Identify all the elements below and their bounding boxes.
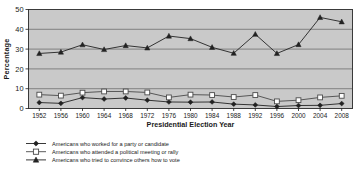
data-point-marker (210, 93, 215, 98)
chart-container: 01020304050 1952195619601964196819721976… (0, 0, 359, 173)
data-point-marker (188, 92, 193, 97)
x-axis-tick-label: 2004 (313, 112, 328, 119)
legend-item[interactable]: Americans who worked for a party or cand… (26, 141, 169, 147)
x-axis-tick-label: 1956 (54, 112, 69, 119)
x-axis-tick-label: 2008 (335, 112, 350, 119)
y-axis-tick-label: 40 (15, 25, 23, 34)
x-axis-title: Presidential Election Year (147, 120, 235, 129)
x-axis-tick-label: 1952 (32, 112, 47, 119)
data-point-marker (102, 89, 107, 94)
x-axis-tick-label: 1996 (270, 112, 285, 119)
y-axis-tick-label: 10 (15, 84, 23, 93)
x-axis-tick-label: 1992 (248, 112, 263, 119)
y-axis-title: Percentage (2, 39, 11, 80)
y-axis-tick-labels: 01020304050 (15, 5, 23, 113)
y-axis-tick-label: 0 (19, 104, 23, 113)
data-point-marker (37, 92, 42, 97)
data-point-marker (123, 89, 128, 94)
data-point-marker (167, 95, 172, 100)
data-point-marker (145, 90, 150, 95)
chart-legend: Americans who worked for a party or cand… (26, 141, 180, 163)
y-axis-tick-label: 30 (15, 45, 23, 54)
data-point-marker (318, 95, 323, 100)
legend-label: Americans who worked for a party or cand… (52, 141, 169, 147)
x-axis-tick-label: 1980 (183, 112, 198, 119)
y-axis-tick-label: 50 (15, 5, 23, 14)
x-axis-tick-label: 1984 (205, 112, 220, 119)
data-point-marker (231, 95, 236, 100)
percentage-by-election-year-line-chart: 01020304050 1952195619601964196819721976… (0, 0, 359, 173)
x-axis-tick-label: 1976 (162, 112, 177, 119)
x-axis-tick-label: 2000 (291, 112, 306, 119)
data-point-marker (33, 141, 38, 146)
x-axis-tick-label: 1972 (140, 112, 155, 119)
data-point-marker (296, 98, 301, 103)
data-point-marker (33, 149, 38, 154)
legend-item[interactable]: Americans who tried to convince others h… (26, 157, 180, 163)
legend-item[interactable]: Americans who attended a political meeti… (26, 149, 178, 155)
x-axis-tick-label: 1960 (75, 112, 90, 119)
legend-label: Americans who tried to convince others h… (52, 157, 180, 163)
data-point-marker (59, 93, 64, 98)
x-axis-tick-label: 1968 (119, 112, 134, 119)
x-axis-tick-label: 1964 (97, 112, 112, 119)
y-axis-tick-label: 20 (15, 65, 23, 74)
data-point-marker (275, 99, 280, 104)
data-point-marker (339, 93, 344, 98)
x-axis-tick-labels: 1952195619601964196819721976198019841988… (32, 112, 349, 119)
legend-label: Americans who attended a political meeti… (52, 149, 178, 155)
data-point-marker (253, 93, 258, 98)
data-point-marker (80, 90, 85, 95)
x-axis-tick-label: 1988 (227, 112, 242, 119)
